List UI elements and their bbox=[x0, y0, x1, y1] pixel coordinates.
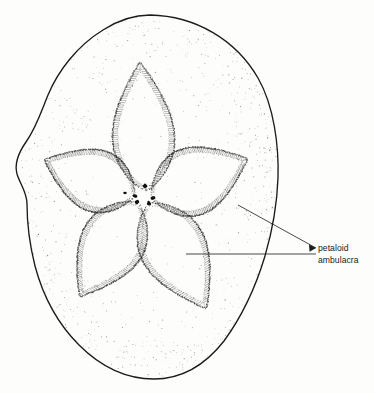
sand-dollar-illustration: petaloid ambulacra bbox=[0, 0, 374, 393]
apical-pore bbox=[147, 203, 151, 206]
annotation-label-line1: petaloid bbox=[318, 243, 349, 253]
apical-pore bbox=[123, 192, 127, 194]
apical-pore bbox=[143, 184, 148, 187]
annotation-label-line2: ambulacra bbox=[318, 255, 359, 265]
sand-dollar-figure: petaloid ambulacra bbox=[0, 0, 374, 393]
apical-pore bbox=[133, 195, 137, 198]
apical-pore bbox=[135, 201, 140, 204]
apical-pore bbox=[151, 197, 156, 200]
figure-background bbox=[0, 0, 374, 393]
